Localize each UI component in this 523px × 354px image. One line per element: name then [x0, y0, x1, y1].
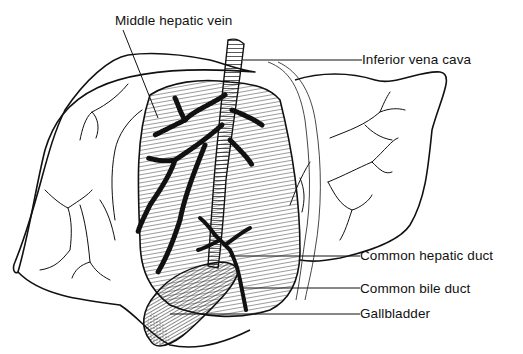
label-common-bile-duct: Common bile duct — [360, 282, 470, 296]
leader-middle-hepatic-vein — [123, 30, 158, 118]
label-middle-hepatic-vein: Middle hepatic vein — [115, 14, 232, 28]
right-lobe-vessels — [290, 92, 405, 240]
label-gallbladder: Gallbladder — [360, 307, 430, 321]
left-lobe-vessels — [40, 84, 142, 280]
label-inferior-vena-cava: Inferior vena cava — [362, 53, 471, 67]
label-common-hepatic-duct: Common hepatic duct — [360, 249, 493, 263]
